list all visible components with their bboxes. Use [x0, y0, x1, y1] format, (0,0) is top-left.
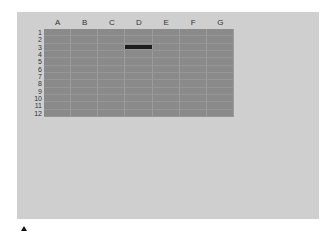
column-header-c[interactable]: C: [98, 18, 125, 28]
column-header-b[interactable]: B: [71, 18, 98, 28]
cell-c2[interactable]: [98, 36, 125, 43]
cell-b5[interactable]: [71, 58, 98, 65]
column-header-g[interactable]: G: [207, 18, 234, 28]
cell-a4[interactable]: [44, 51, 71, 58]
cell-g7[interactable]: [207, 73, 234, 80]
cell-a5[interactable]: [44, 58, 71, 65]
cell-f9[interactable]: [180, 88, 207, 95]
cell-e4[interactable]: [153, 51, 180, 58]
row-header-10[interactable]: 10: [28, 95, 42, 102]
row-header-8[interactable]: 8: [28, 80, 42, 87]
cell-c3[interactable]: [98, 44, 125, 51]
cell-b6[interactable]: [71, 66, 98, 73]
cell-f1[interactable]: [180, 29, 207, 36]
cell-c8[interactable]: [98, 80, 125, 87]
cell-b2[interactable]: [71, 36, 98, 43]
cell-e1[interactable]: [153, 29, 180, 36]
cell-a3[interactable]: [44, 44, 71, 51]
cell-b8[interactable]: [71, 80, 98, 87]
cell-f12[interactable]: [180, 110, 207, 117]
cell-g10[interactable]: [207, 95, 234, 102]
cell-a1[interactable]: [44, 29, 71, 36]
row-header-5[interactable]: 5: [28, 58, 42, 65]
cell-b9[interactable]: [71, 88, 98, 95]
cell-f8[interactable]: [180, 80, 207, 87]
cell-c1[interactable]: [98, 29, 125, 36]
cell-d9[interactable]: [125, 88, 152, 95]
cell-d7[interactable]: [125, 73, 152, 80]
cell-d11[interactable]: [125, 102, 152, 109]
cell-c7[interactable]: [98, 73, 125, 80]
cell-f10[interactable]: [180, 95, 207, 102]
cell-e5[interactable]: [153, 58, 180, 65]
cell-f6[interactable]: [180, 66, 207, 73]
cell-b4[interactable]: [71, 51, 98, 58]
cell-g8[interactable]: [207, 80, 234, 87]
column-header-d[interactable]: D: [125, 18, 152, 28]
cell-f5[interactable]: [180, 58, 207, 65]
cell-a9[interactable]: [44, 88, 71, 95]
cell-b7[interactable]: [71, 73, 98, 80]
row-header-3[interactable]: 3: [28, 44, 42, 51]
cell-g12[interactable]: [207, 110, 234, 117]
cell-c11[interactable]: [98, 102, 125, 109]
cell-f2[interactable]: [180, 36, 207, 43]
row-header-9[interactable]: 9: [28, 88, 42, 95]
row-header-7[interactable]: 7: [28, 73, 42, 80]
cell-d1[interactable]: [125, 29, 152, 36]
cell-g5[interactable]: [207, 58, 234, 65]
cell-f11[interactable]: [180, 102, 207, 109]
cell-f7[interactable]: [180, 73, 207, 80]
cell-d3[interactable]: [125, 45, 152, 50]
column-header-e[interactable]: E: [153, 18, 180, 28]
cell-e2[interactable]: [153, 36, 180, 43]
cell-e10[interactable]: [153, 95, 180, 102]
cell-d4[interactable]: [125, 51, 152, 58]
column-header-f[interactable]: F: [180, 18, 207, 28]
cell-a10[interactable]: [44, 95, 71, 102]
cell-g3[interactable]: [207, 44, 234, 51]
row-header-1[interactable]: 1: [28, 29, 42, 36]
cell-b10[interactable]: [71, 95, 98, 102]
cell-e3[interactable]: [153, 44, 180, 51]
cell-d5[interactable]: [125, 58, 152, 65]
cell-c10[interactable]: [98, 95, 125, 102]
cell-f3[interactable]: [180, 44, 207, 51]
cell-c9[interactable]: [98, 88, 125, 95]
cell-d2[interactable]: [125, 36, 152, 43]
cell-g1[interactable]: [207, 29, 234, 36]
cell-grid[interactable]: [44, 29, 234, 117]
cell-c6[interactable]: [98, 66, 125, 73]
cell-e6[interactable]: [153, 66, 180, 73]
cell-g2[interactable]: [207, 36, 234, 43]
cell-g6[interactable]: [207, 66, 234, 73]
cell-b3[interactable]: [71, 44, 98, 51]
cell-b1[interactable]: [71, 29, 98, 36]
cell-c5[interactable]: [98, 58, 125, 65]
cell-g11[interactable]: [207, 102, 234, 109]
cell-e11[interactable]: [153, 102, 180, 109]
cell-c12[interactable]: [98, 110, 125, 117]
cell-d12[interactable]: [125, 110, 152, 117]
column-header-a[interactable]: A: [44, 18, 71, 28]
cell-a12[interactable]: [44, 110, 71, 117]
cell-e7[interactable]: [153, 73, 180, 80]
cell-e12[interactable]: [153, 110, 180, 117]
cell-a6[interactable]: [44, 66, 71, 73]
cell-a2[interactable]: [44, 36, 71, 43]
row-header-4[interactable]: 4: [28, 51, 42, 58]
row-header-12[interactable]: 12: [28, 110, 42, 117]
cell-a11[interactable]: [44, 102, 71, 109]
cell-g9[interactable]: [207, 88, 234, 95]
cell-e9[interactable]: [153, 88, 180, 95]
row-header-2[interactable]: 2: [28, 36, 42, 43]
cell-d6[interactable]: [125, 66, 152, 73]
row-header-6[interactable]: 6: [28, 66, 42, 73]
cell-g4[interactable]: [207, 51, 234, 58]
cell-b11[interactable]: [71, 102, 98, 109]
cell-a8[interactable]: [44, 80, 71, 87]
cell-d10[interactable]: [125, 95, 152, 102]
cell-d8[interactable]: [125, 80, 152, 87]
cell-f4[interactable]: [180, 51, 207, 58]
cell-e8[interactable]: [153, 80, 180, 87]
